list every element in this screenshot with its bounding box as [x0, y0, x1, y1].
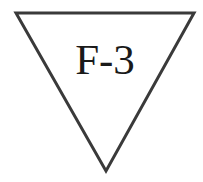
triangle-label: F-3: [0, 38, 203, 81]
inverted-triangle-shape: [0, 0, 203, 182]
diagram-canvas: F-3: [0, 0, 203, 182]
